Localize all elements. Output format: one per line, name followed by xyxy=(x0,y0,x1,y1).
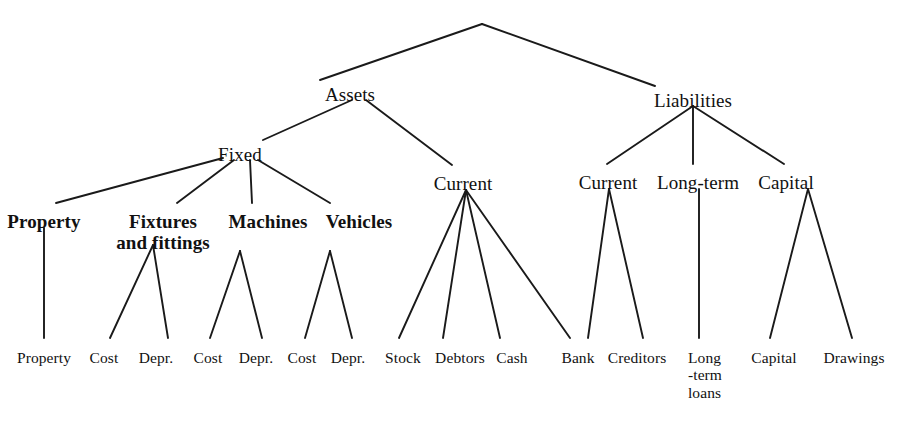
leaf-node-leaf-property: Property xyxy=(17,349,71,366)
edge-assets-current-to-leaf-bank xyxy=(466,190,570,338)
leaf-node-leaf-depr-1: Depr. xyxy=(139,349,174,366)
node-capital: Capital xyxy=(758,172,814,193)
leaf-node-leaf-creditors: Creditors xyxy=(608,349,667,366)
node-liab-current: Current xyxy=(579,172,638,193)
leaf-node-leaf-bank: Bank xyxy=(561,349,594,366)
leaf-node-leaf-depr-3: Depr. xyxy=(331,349,366,366)
edge-liabilities-to-liab-current xyxy=(607,106,693,164)
edge-capital-to-leaf-capital xyxy=(770,189,808,338)
edge-machines-to-leaf-depr-2 xyxy=(240,251,262,338)
edge-fixed-to-machines xyxy=(250,160,252,203)
edge-liabilities-to-capital xyxy=(693,106,784,164)
edge-fixed-to-fixtures xyxy=(177,160,234,203)
edge-assets-current-to-leaf-cash xyxy=(466,190,500,338)
node-liabilities: Liabilities xyxy=(654,90,732,111)
edge-assets-current-to-leaf-debtors xyxy=(443,190,466,338)
leaf-node-leaf-stock: Stock xyxy=(385,349,421,366)
leaf-node-leaf-cost-2: Cost xyxy=(194,349,223,366)
leaf-node-leaf-capital: Capital xyxy=(751,349,796,366)
leaf-node-leaf-drawings: Drawings xyxy=(823,349,884,366)
edge-machines-to-leaf-cost-2 xyxy=(210,251,240,338)
leaf-node-leaf-cost-3: Cost xyxy=(288,349,317,366)
leaf-node-leaf-debtors: Debtors xyxy=(435,349,485,366)
leaf-node-leaf-depr-2: Depr. xyxy=(239,349,274,366)
leaf-node-leaf-long-term-loans: Long -term loans xyxy=(688,349,722,401)
edge-capital-to-leaf-drawings xyxy=(808,189,852,338)
edge-fixtures-to-leaf-cost-1 xyxy=(110,245,153,338)
edge-fixed-to-vehicles xyxy=(258,160,330,203)
edge-root-to-liabilities xyxy=(482,24,655,86)
node-machines: Machines xyxy=(229,211,308,232)
node-fixtures: Fixtures and fittings xyxy=(116,211,210,254)
edge-fixtures-to-leaf-depr-1 xyxy=(153,245,168,338)
edge-vehicles-to-leaf-depr-3 xyxy=(330,251,352,338)
leaf-node-leaf-cost-1: Cost xyxy=(90,349,119,366)
node-assets: Assets xyxy=(325,84,375,105)
node-long-term: Long-term xyxy=(657,172,739,193)
tree-diagram: AssetsLiabilitiesFixedCurrentCurrentLong… xyxy=(0,0,914,442)
edge-assets-to-fixed xyxy=(263,100,352,140)
edge-vehicles-to-leaf-cost-3 xyxy=(305,251,330,338)
leaf-node-leaf-cash: Cash xyxy=(496,349,527,366)
node-vehicles: Vehicles xyxy=(326,211,393,232)
edge-liab-current-to-leaf-bank-right xyxy=(588,189,609,338)
node-assets-current: Current xyxy=(434,173,493,194)
edge-root-to-assets xyxy=(320,24,482,80)
node-fixed: Fixed xyxy=(218,144,262,165)
edge-assets-current-to-leaf-stock xyxy=(399,190,466,338)
edge-liab-current-to-leaf-creditors xyxy=(609,189,643,338)
node-property: Property xyxy=(7,211,80,232)
edge-fixed-to-property xyxy=(56,158,223,203)
edge-assets-to-assets-current xyxy=(366,100,452,165)
